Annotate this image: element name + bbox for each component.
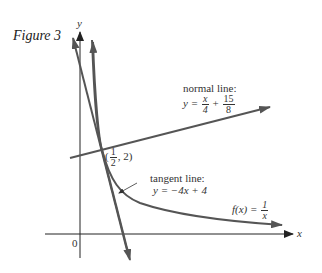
tangent-pointer xyxy=(119,183,137,193)
normal-line-equation: y = x4 + 158 xyxy=(183,94,236,115)
x-axis-label: x xyxy=(297,227,302,239)
graph-canvas xyxy=(0,0,322,273)
normal-line-label: normal line: y = x4 + 158 xyxy=(182,82,236,115)
function-label: f(x) = 1x xyxy=(232,200,269,221)
curve-f-of-x xyxy=(92,40,282,225)
tangent-line-label: tangent line: y = −4x + 4 xyxy=(150,172,207,196)
y-axis-label: y xyxy=(77,17,82,29)
point-label: (12, 2) xyxy=(105,147,132,168)
origin-label: 0 xyxy=(72,237,78,249)
tangent-line-title: tangent line: xyxy=(150,172,207,184)
tangent-line-equation: y = −4x + 4 xyxy=(153,184,207,196)
